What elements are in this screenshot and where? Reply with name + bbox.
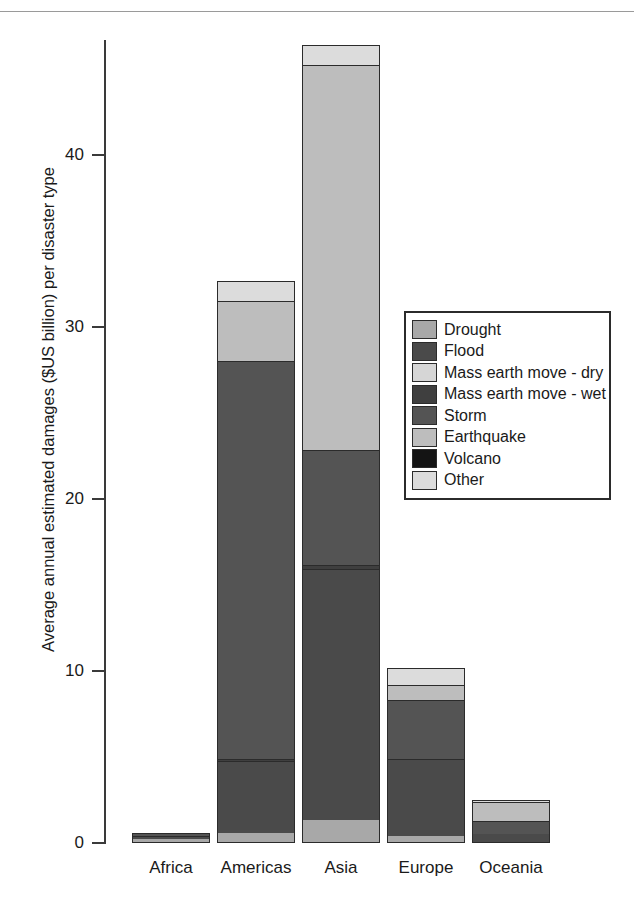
legend-item[interactable]: Other — [412, 470, 605, 492]
legend-item-label: Drought — [444, 322, 501, 338]
legend-item-label: Earthquake — [444, 429, 526, 445]
bar-segment — [388, 759, 464, 836]
bar-segment — [473, 802, 549, 821]
bar-segment — [388, 700, 464, 758]
legend-swatch-icon — [412, 363, 437, 382]
bar-segment — [218, 361, 294, 758]
legend-swatch-icon — [412, 428, 437, 447]
y-axis-title: Average annual estimated damages ($US bi… — [39, 60, 58, 760]
bar-segment — [133, 839, 209, 842]
legend-item[interactable]: Volcano — [412, 448, 605, 470]
legend-item-label: Mass earth move - dry — [444, 365, 603, 381]
y-axis-tick — [92, 842, 104, 844]
y-axis-tick — [92, 326, 104, 328]
bar-segment — [473, 834, 549, 842]
bar-segment — [218, 761, 294, 833]
bar-segment — [388, 668, 464, 684]
y-axis-tick-label: 20 — [24, 490, 84, 507]
legend-item[interactable]: Storm — [412, 405, 605, 427]
bar-oceania[interactable] — [472, 800, 550, 843]
legend-item-label: Storm — [444, 408, 487, 424]
y-axis-line — [104, 40, 106, 844]
legend-item-label: Volcano — [444, 451, 501, 467]
bar-segment — [218, 301, 294, 361]
bar-segment — [388, 685, 464, 700]
x-axis-label-europe: Europe — [387, 858, 465, 878]
y-axis-tick — [92, 154, 104, 156]
y-axis-tick-label: 40 — [24, 146, 84, 163]
chart-legend: DroughtFloodMass earth move - dryMass ea… — [404, 311, 611, 500]
legend-item[interactable]: Drought — [412, 319, 605, 341]
bar-segment — [303, 569, 379, 820]
legend-swatch-icon — [412, 385, 437, 404]
bar-europe[interactable] — [387, 668, 465, 843]
x-axis-label-oceania: Oceania — [472, 858, 550, 878]
bar-africa[interactable] — [132, 833, 210, 843]
legend-item[interactable]: Flood — [412, 341, 605, 363]
legend-item-label: Mass earth move - wet — [444, 386, 606, 402]
y-axis-tick-label: 30 — [24, 318, 84, 335]
bar-segment — [303, 45, 379, 65]
bar-asia[interactable] — [302, 45, 380, 843]
legend-item[interactable]: Mass earth move - wet — [412, 384, 605, 406]
x-axis-label-asia: Asia — [302, 858, 380, 878]
legend-swatch-icon — [412, 449, 437, 468]
y-axis-tick-label: 0 — [24, 834, 84, 851]
y-axis-tick — [92, 498, 104, 500]
bar-americas[interactable] — [217, 281, 295, 843]
bar-segment — [303, 450, 379, 565]
bar-segment — [388, 836, 464, 842]
bar-segment — [303, 820, 379, 842]
legend-swatch-icon — [412, 342, 437, 361]
legend-item-label: Other — [444, 472, 484, 488]
bar-segment — [473, 821, 549, 834]
legend-swatch-icon — [412, 471, 437, 490]
chart-plot-area: Average annual estimated damages ($US bi… — [0, 0, 634, 913]
y-axis-tick — [92, 670, 104, 672]
bar-segment — [218, 281, 294, 302]
x-axis-label-americas: Americas — [217, 858, 295, 878]
bar-segment — [218, 833, 294, 842]
legend-item[interactable]: Earthquake — [412, 427, 605, 449]
legend-item[interactable]: Mass earth move - dry — [412, 362, 605, 384]
y-axis-tick-label: 10 — [24, 662, 84, 679]
bar-segment — [303, 65, 379, 450]
x-axis-label-africa: Africa — [132, 858, 210, 878]
legend-swatch-icon — [412, 320, 437, 339]
legend-item-label: Flood — [444, 343, 484, 359]
legend-swatch-icon — [412, 406, 437, 425]
